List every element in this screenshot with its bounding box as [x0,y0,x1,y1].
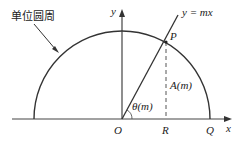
angle-label: θ(m) [132,100,153,113]
y-axis-arrow-icon [119,9,125,17]
point-R-label: R [161,124,169,136]
unit-circle-label: 单位圆周 [11,9,55,23]
x-axis-label: x [225,122,231,134]
point-P-label: P [169,30,177,42]
point-Q-label: Q [206,124,214,136]
point-P-dot [164,40,167,43]
pointer-line [34,24,56,50]
unit-circle-diagram: 单位圆周 y y = mx P A(m) θ(m) O R Q x [0,0,249,141]
origin-label: O [114,124,122,136]
area-label: A(m) [169,79,192,92]
y-axis-label: y [110,5,116,17]
line-label: y = mx [181,6,213,18]
